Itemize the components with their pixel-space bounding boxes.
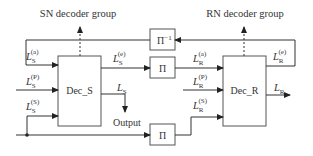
rn-decoder-group-title: RN decoder group: [206, 8, 284, 19]
lr-p-label: LR(P): [192, 73, 208, 90]
sn-decoder-group-title: SN decoder group: [40, 8, 116, 19]
lr-label: LR: [273, 82, 285, 96]
interleaver-top-label: Π: [159, 63, 166, 74]
lr-s-label: LR(S): [192, 97, 208, 114]
lr-e-label: LR(e): [272, 48, 287, 65]
rn-systematic-line: [175, 117, 223, 135]
sn-output-line: [101, 94, 125, 112]
ls-p-label: LS(P): [25, 73, 40, 90]
decoder-diagram: SN decoder group RN decoder group Dec_S …: [0, 0, 313, 156]
ls-a-label: LS(a): [25, 48, 39, 65]
lr-a-label: LR(a): [192, 50, 207, 67]
output-label: Output: [113, 117, 141, 128]
dec-s-label: Dec_S: [66, 85, 93, 96]
interleaver-bottom-label: Π: [159, 130, 166, 141]
dec-r-label: Dec_R: [231, 85, 259, 96]
ls-e-label: LS(e): [112, 50, 126, 67]
ls-s-label: LS(S): [25, 98, 40, 115]
sn-systematic-line: [27, 116, 58, 135]
